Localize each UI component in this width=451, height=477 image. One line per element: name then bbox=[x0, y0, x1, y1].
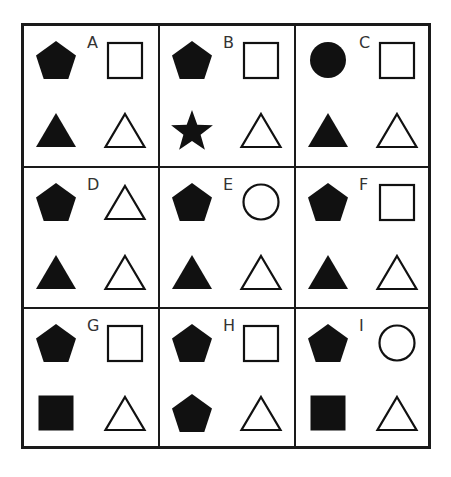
triangle-filled-icon bbox=[31, 105, 81, 155]
cell-c: C bbox=[296, 26, 430, 166]
cell-e: E bbox=[160, 168, 294, 308]
circle-filled-icon bbox=[303, 35, 353, 85]
triangle-outline-icon bbox=[372, 388, 422, 438]
square-outline-icon bbox=[372, 35, 422, 85]
pentagon-filled-icon bbox=[303, 318, 353, 368]
cell-label: D bbox=[87, 177, 99, 193]
triangle-filled-icon bbox=[167, 247, 217, 297]
square-outline-icon bbox=[236, 35, 286, 85]
square-outline-icon bbox=[372, 177, 422, 227]
cell-label: E bbox=[223, 177, 233, 193]
triangle-outline-icon bbox=[100, 247, 150, 297]
cell-label: F bbox=[359, 177, 368, 193]
square-outline-icon bbox=[236, 318, 286, 368]
cell-label: A bbox=[87, 35, 98, 51]
square-filled-icon bbox=[303, 388, 353, 438]
pentagon-filled-icon bbox=[31, 318, 81, 368]
pentagon-filled-icon bbox=[167, 177, 217, 227]
square-filled-icon bbox=[31, 388, 81, 438]
square-outline-icon bbox=[100, 318, 150, 368]
triangle-outline-icon bbox=[100, 105, 150, 155]
cell-label: G bbox=[87, 318, 99, 334]
triangle-outline-icon bbox=[100, 177, 150, 227]
circle-outline-icon bbox=[236, 177, 286, 227]
circle-outline-icon bbox=[372, 318, 422, 368]
cell-i: I bbox=[296, 309, 430, 449]
cell-label: H bbox=[223, 318, 235, 334]
puzzle-grid: ABCDEFGHI bbox=[21, 23, 431, 449]
cell-label: C bbox=[359, 35, 370, 51]
cell-b: B bbox=[160, 26, 294, 166]
cell-a: A bbox=[24, 26, 158, 166]
triangle-outline-icon bbox=[372, 247, 422, 297]
pentagon-filled-icon bbox=[303, 177, 353, 227]
triangle-outline-icon bbox=[100, 388, 150, 438]
triangle-filled-icon bbox=[303, 247, 353, 297]
cell-h: H bbox=[160, 309, 294, 449]
triangle-outline-icon bbox=[236, 388, 286, 438]
pentagon-filled-icon bbox=[31, 177, 81, 227]
square-outline-icon bbox=[100, 35, 150, 85]
star-filled-icon bbox=[167, 105, 217, 155]
pentagon-filled-icon bbox=[167, 388, 217, 438]
cell-label: B bbox=[223, 35, 234, 51]
triangle-outline-icon bbox=[236, 247, 286, 297]
pentagon-filled-icon bbox=[167, 35, 217, 85]
cell-d: D bbox=[24, 168, 158, 308]
triangle-filled-icon bbox=[31, 247, 81, 297]
triangle-filled-icon bbox=[303, 105, 353, 155]
triangle-outline-icon bbox=[372, 105, 422, 155]
cell-g: G bbox=[24, 309, 158, 449]
pentagon-filled-icon bbox=[31, 35, 81, 85]
pentagon-filled-icon bbox=[167, 318, 217, 368]
triangle-outline-icon bbox=[236, 105, 286, 155]
cell-label: I bbox=[359, 318, 364, 334]
cell-f: F bbox=[296, 168, 430, 308]
